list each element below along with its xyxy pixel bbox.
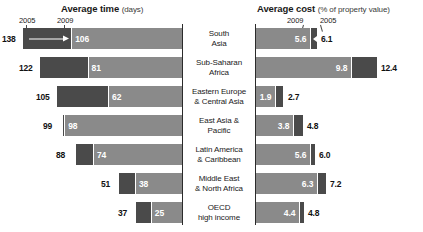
region-label-line2: Pacific [183, 126, 255, 136]
time-row-oecd: 25 37 [0, 202, 183, 223]
region-label-line2: Africa [183, 68, 255, 78]
time-seg-2005-sub-saharan-africa [40, 57, 88, 78]
time-bar-latin-america: 74 [76, 144, 182, 165]
cropped-text-strip [0, 0, 423, 2]
chart-title-time: Average time (days) [61, 3, 143, 14]
time-value-2005-oecd: 37 [118, 208, 127, 218]
panel-region-labels: South Asia Sub-Saharan Africa Eastern Eu… [183, 24, 255, 228]
cost-seg-2005-eastern-europe [275, 86, 283, 107]
cost-value-2009-oecd: 4.4 [284, 208, 296, 218]
cost-value-2009-eastern-europe: 1.9 [260, 92, 272, 102]
time-value-2009-eastern-europe: 62 [112, 92, 121, 102]
cost-seg-2005-east-asia-pacific [293, 115, 303, 136]
time-seg-2009-eastern-europe: 62 [108, 86, 182, 107]
cost-bar-sub-saharan-africa: 9.8 [256, 57, 377, 78]
time-seg-2009-sub-saharan-africa: 81 [88, 57, 182, 78]
time-value-2005-sub-saharan-africa: 122 [19, 63, 33, 73]
region-label-line1: South [183, 29, 255, 39]
cost-row-middle-east: 6.3 7.2 [255, 173, 423, 194]
time-seg-2005-oecd [136, 202, 151, 223]
time-seg-2005-south-asia [23, 28, 71, 49]
region-label-line2: & Caribbean [183, 155, 255, 165]
time-row-latin-america: 74 88 [0, 144, 183, 165]
decrease-arrow-icon [29, 35, 69, 42]
time-bar-sub-saharan-africa: 81 [40, 57, 182, 78]
region-label-line2: & Central Asia [183, 97, 255, 107]
cost-row-latin-america: 5.6 6.0 [255, 144, 423, 165]
cost-row-east-asia-pacific: 3.8 4.8 [255, 115, 423, 136]
time-value-2005-south-asia: 138 [2, 34, 16, 44]
cost-value-2005-east-asia-pacific: 4.8 [307, 121, 318, 131]
region-label-oecd: OECD high income [183, 203, 255, 222]
cost-value-2005-middle-east: 7.2 [330, 179, 341, 189]
chart-title-cost-unit: (% of property value) [318, 5, 390, 14]
region-label-line1: Sub-Saharan [183, 58, 255, 68]
region-label-line2: Asia [183, 39, 255, 49]
time-value-2005-eastern-europe: 105 [36, 92, 50, 102]
time-value-2009-east-asia-pacific: 98 [68, 121, 77, 131]
cost-seg-2005-latin-america [310, 144, 315, 165]
cost-value-2005-eastern-europe: 2.7 [288, 92, 299, 102]
cost-bar-middle-east: 6.3 [256, 173, 326, 194]
cost-value-2005-oecd: 4.8 [308, 208, 319, 218]
time-seg-2009-south-asia: 106 [71, 28, 181, 49]
time-value-2009-middle-east: 38 [139, 179, 148, 189]
time-value-2005-latin-america: 88 [56, 150, 65, 160]
cost-row-south-asia: 5.6 6.1 [255, 28, 423, 49]
cost-seg-2005-sub-saharan-africa [351, 57, 377, 78]
region-label-south-asia: South Asia [183, 29, 255, 48]
time-value-2009-oecd: 25 [155, 208, 164, 218]
infographic-figure: Average time (days) Average cost (% of p… [0, 0, 423, 232]
time-seg-2009-latin-america: 74 [93, 144, 182, 165]
cost-row-sub-saharan-africa: 9.8 12.4 [255, 57, 423, 78]
time-value-2009-latin-america: 74 [97, 150, 106, 160]
region-label-line1: Eastern Europe [183, 87, 255, 97]
decrease-arrow-icon [313, 36, 320, 42]
region-label-middle-east: Middle East & North Africa [183, 174, 255, 193]
cost-seg-2009-sub-saharan-africa: 9.8 [256, 57, 351, 78]
time-value-2005-middle-east: 51 [101, 179, 110, 189]
region-label-line1: Latin America [183, 145, 255, 155]
region-label-line2: & North Africa [183, 184, 255, 194]
time-bar-eastern-europe: 62 [57, 86, 182, 107]
time-row-sub-saharan-africa: 81 122 [0, 57, 183, 78]
region-label-line1: OECD [183, 203, 255, 213]
panel-average-time: 106 138 81 122 62 105 [0, 24, 183, 228]
time-bar-east-asia-pacific: 98 [63, 115, 182, 136]
region-label-eastern-europe: Eastern Europe & Central Asia [183, 87, 255, 106]
region-label-east-asia-pacific: East Asia & Pacific [183, 116, 255, 135]
cost-row-oecd: 4.4 4.8 [255, 202, 423, 223]
cost-bar-east-asia-pacific: 3.8 [256, 115, 303, 136]
cost-value-2005-latin-america: 6.0 [319, 150, 330, 160]
cost-seg-2009-east-asia-pacific: 3.8 [256, 115, 293, 136]
cost-value-2009-south-asia: 5.6 [295, 34, 307, 44]
cost-seg-2009-oecd: 4.4 [256, 202, 299, 223]
time-seg-2005-eastern-europe [57, 86, 108, 107]
time-seg-2005-latin-america [76, 144, 93, 165]
time-row-south-asia: 106 138 [0, 28, 183, 49]
cost-seg-2009-south-asia: 5.6 [256, 28, 310, 49]
time-value-2005-east-asia-pacific: 99 [43, 121, 52, 131]
cost-bar-oecd: 4.4 [256, 202, 304, 223]
time-seg-2009-middle-east: 38 [135, 173, 182, 194]
chart-title-cost: Average cost (% of property value) [257, 3, 390, 14]
cost-bar-latin-america: 5.6 [256, 144, 315, 165]
panel-average-cost: 5.6 6.1 9.8 12.4 [255, 24, 423, 228]
time-value-2009-south-asia: 106 [75, 34, 89, 44]
cost-seg-2009-latin-america: 5.6 [256, 144, 310, 165]
chart-title-time-main: Average time [61, 3, 119, 14]
region-label-latin-america: Latin America & Caribbean [183, 145, 255, 164]
cost-bar-eastern-europe: 1.9 [256, 86, 283, 107]
cost-row-eastern-europe: 1.9 2.7 [255, 86, 423, 107]
time-row-eastern-europe: 62 105 [0, 86, 183, 107]
time-seg-2005-middle-east [119, 173, 135, 194]
cost-value-2009-east-asia-pacific: 3.8 [278, 121, 290, 131]
chart-title-cost-main: Average cost [257, 3, 315, 14]
cost-seg-2009-middle-east: 6.3 [256, 173, 317, 194]
time-seg-2009-east-asia-pacific: 98 [64, 115, 181, 136]
cost-seg-2005-oecd [299, 202, 304, 223]
time-bar-middle-east: 38 [119, 173, 182, 194]
cost-value-2009-sub-saharan-africa: 9.8 [336, 63, 348, 73]
cost-seg-2005-south-asia [310, 28, 317, 49]
chart-title-time-unit: (days) [122, 5, 144, 14]
